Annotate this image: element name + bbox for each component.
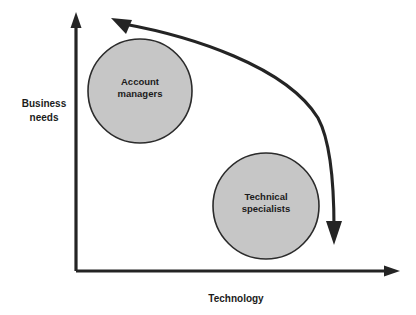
bubble-technical-specialists[interactable]: Technical specialists bbox=[213, 153, 319, 259]
bubble-account-managers-label-line2: managers bbox=[118, 88, 163, 99]
y-axis bbox=[71, 12, 82, 271]
bubble-technical-specialists-label-line1: Technical bbox=[244, 191, 287, 202]
y-axis-arrowhead-icon bbox=[71, 12, 82, 28]
y-axis-label: Business needs bbox=[22, 98, 67, 123]
bubble-account-managers-label-line1: Account bbox=[121, 76, 160, 87]
x-axis-arrowhead-icon bbox=[384, 266, 400, 277]
x-axis-label: Technology bbox=[208, 293, 264, 304]
diagram-svg: Account managers Technical specialists B… bbox=[0, 0, 416, 315]
transition-arrow-head-up-left-icon bbox=[111, 18, 132, 34]
x-axis bbox=[76, 266, 400, 277]
transition-arrow-head-down-icon bbox=[326, 221, 342, 245]
y-axis-label-line2: needs bbox=[30, 112, 59, 123]
y-axis-label-line1: Business bbox=[22, 98, 67, 109]
diagram-canvas: Account managers Technical specialists B… bbox=[0, 0, 416, 315]
bubble-account-managers[interactable]: Account managers bbox=[88, 39, 192, 143]
bubble-technical-specialists-label-line2: specialists bbox=[242, 203, 291, 214]
